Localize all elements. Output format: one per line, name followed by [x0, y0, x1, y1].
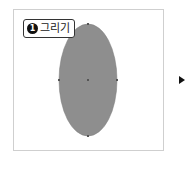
- step-label: 1 그리기: [23, 19, 75, 38]
- anchor-right[interactable]: [116, 79, 118, 81]
- anchor-top[interactable]: [87, 23, 89, 25]
- step-label-text: 그리기: [40, 23, 70, 34]
- next-arrow-icon: [179, 76, 185, 84]
- anchor-center: [87, 79, 89, 81]
- anchor-bottom[interactable]: [87, 135, 89, 137]
- anchor-left[interactable]: [58, 79, 60, 81]
- step-number-badge: 1: [27, 23, 38, 34]
